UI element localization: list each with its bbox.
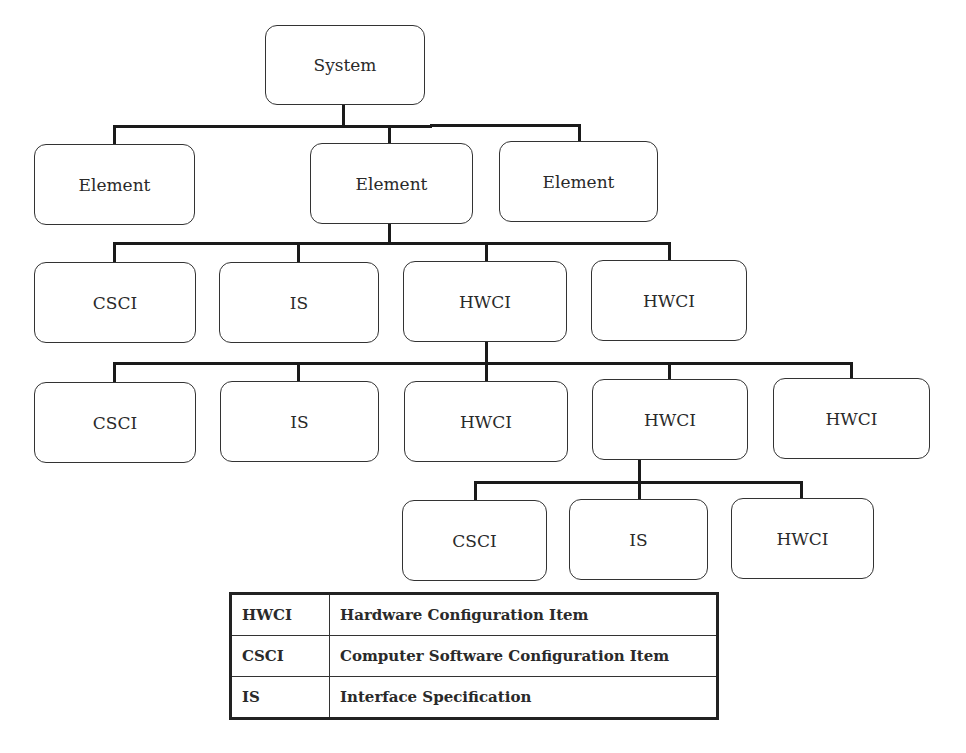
legend-definition: Interface Specification [330,677,718,719]
node-l3-is: IS [220,381,379,462]
node-label: CSCI [93,413,137,433]
legend-abbr: IS [231,677,330,719]
connector-hwci-a-up [485,242,488,262]
connector-level1-bar-right [430,124,581,127]
connector-level2-bar [113,242,670,245]
connector-element2-down [388,222,391,244]
connector-element2-up [388,125,391,145]
node-l4-is: IS [569,499,708,580]
node-l2-is: IS [219,262,379,343]
connector-is-up [297,242,300,263]
connector-system-down [342,103,345,127]
node-label: Element [543,172,615,192]
connector-level3-bar [113,362,853,365]
legend-definition: Hardware Configuration Item [330,594,718,636]
node-l4-csci: CSCI [402,500,547,581]
connector-hwci-b-up [668,242,671,262]
node-label: HWCI [825,409,877,429]
node-label: IS [629,530,647,550]
node-l4-hwci: HWCI [731,498,874,579]
node-label: HWCI [459,292,511,312]
node-label: IS [290,412,308,432]
legend-abbr: HWCI [231,594,330,636]
node-label: Element [356,174,428,194]
node-label: HWCI [460,412,512,432]
legend-row: IS Interface Specification [231,677,718,719]
node-l3-hwci-1: HWCI [404,381,568,462]
legend-table: HWCI Hardware Configuration Item CSCI Co… [229,592,719,720]
node-label: HWCI [644,410,696,430]
connector-hwci-a-down [485,340,488,364]
connector-l4-csci-up [474,481,477,502]
node-label: CSCI [452,531,496,551]
connector-l3-is-up [297,362,300,383]
connector-element1-up [113,125,116,145]
node-label: System [314,55,377,75]
node-l3-hwci-3: HWCI [773,378,930,459]
node-element-1: Element [34,144,195,225]
legend-definition: Computer Software Configuration Item [330,636,718,677]
node-label: IS [290,293,308,313]
legend-row: CSCI Computer Software Configuration Ite… [231,636,718,677]
node-l3-csci: CSCI [34,382,196,463]
node-element-3: Element [499,141,658,222]
node-l2-hwci-b: HWCI [591,260,747,341]
connector-l3-csci-up [113,362,116,383]
node-l3-hwci-c: HWCI [592,379,748,460]
legend-row: HWCI Hardware Configuration Item [231,594,718,636]
node-l2-csci: CSCI [34,262,196,343]
connector-csci-up [113,242,116,263]
node-label: HWCI [776,529,828,549]
node-label: CSCI [93,293,137,313]
legend-abbr: CSCI [231,636,330,677]
connector-level1-bar [113,125,432,128]
node-element-2: Element [310,143,473,224]
node-label: HWCI [643,291,695,311]
connector-l3-hwci1-up [485,362,488,382]
node-label: Element [79,175,151,195]
node-l2-hwci-a: HWCI [403,261,567,342]
node-system: System [265,25,425,105]
